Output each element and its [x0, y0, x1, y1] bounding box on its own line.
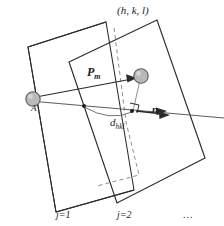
planes-ellipsis-label: ... [183, 210, 194, 220]
figure-canvas [0, 0, 224, 226]
miller-indices-label: (h, k, l) [117, 5, 149, 16]
position-vector-subscript: m [94, 72, 100, 81]
spacing-endpoint-right [130, 109, 134, 113]
atom-A-label: A [31, 104, 37, 113]
spacing-subscript: hkl [116, 123, 125, 131]
atom-lattice-point [134, 69, 148, 83]
crystal-plane-figure: (h, k, l) Pm n dhkl A j=1 j=2 ... [0, 0, 224, 226]
spacing-endpoint-left [82, 104, 86, 108]
atom-lattice-point-highlight [136, 71, 141, 76]
atom-A-highlight [28, 94, 33, 99]
plane-j1-label: j=1 [56, 210, 71, 220]
position-vector-label: Pm [87, 66, 101, 81]
normal-vector-label: n [152, 104, 158, 115]
interplanar-spacing-label: dhkl [110, 117, 124, 131]
plane-j2-label: j=2 [117, 210, 132, 220]
